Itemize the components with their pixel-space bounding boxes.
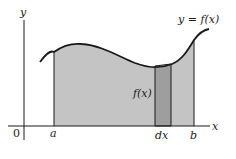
strip-height-label: f(x) <box>132 87 152 100</box>
area-under-curve-diagram: y x y = f(x) f(x) 0 a dx b <box>0 0 236 159</box>
y-axis-label: y <box>19 6 27 19</box>
dx-strip <box>155 64 171 126</box>
origin-label: 0 <box>13 127 20 140</box>
a-label: a <box>50 127 57 140</box>
curve-label: y = f(x) <box>177 13 219 26</box>
shaded-region <box>54 40 194 126</box>
dx-label: dx <box>155 129 169 142</box>
x-axis-label: x <box>212 120 219 133</box>
b-label: b <box>190 129 197 142</box>
